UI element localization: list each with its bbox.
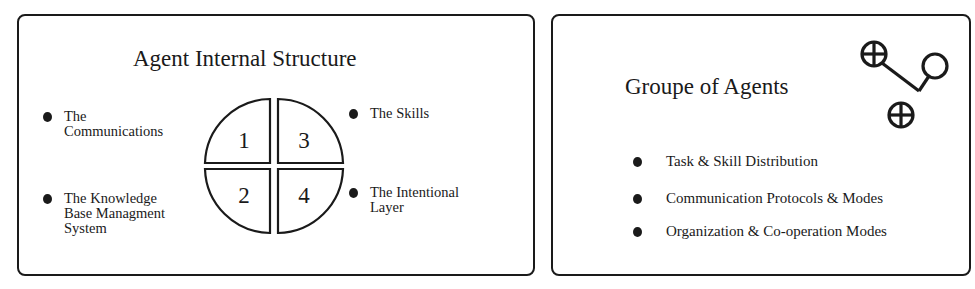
bullet-icon (349, 188, 358, 198)
list-item-intentional-layer: The Intentional Layer (349, 185, 459, 215)
agent-internal-structure-panel: Agent Internal Structure The Communicati… (17, 14, 535, 276)
panel-title: Groupe of Agents (625, 74, 789, 100)
item-label: Communication Protocols & Modes (666, 191, 883, 206)
item-label: Task & Skill Distribution (666, 154, 818, 169)
quartered-circle-diagram: 1 3 2 4 (202, 96, 346, 236)
panel-title: Agent Internal Structure (133, 46, 357, 72)
agent-node-icon (923, 54, 947, 78)
bullet-icon (633, 227, 642, 237)
bullet-icon (633, 194, 642, 204)
quadrant-4-number: 4 (298, 183, 310, 208)
bullet-icon (43, 194, 52, 204)
list-item-skills: The Skills (349, 106, 429, 121)
list-item-organization-cooperation: Organization & Co-operation Modes (633, 224, 887, 239)
quadrant-2-number: 2 (238, 183, 250, 208)
bullet-icon (43, 112, 52, 122)
list-item-task-skill-distribution: Task & Skill Distribution (633, 154, 818, 169)
item-label: The Knowledge Base Managment System (64, 191, 165, 236)
bullet-icon (633, 157, 642, 167)
list-item-communication-protocols: Communication Protocols & Modes (633, 191, 883, 206)
item-label: Organization & Co-operation Modes (666, 224, 887, 239)
bullet-icon (349, 109, 358, 119)
quadrant-1-number: 1 (238, 128, 250, 153)
quadrant-3-shape (278, 99, 343, 163)
groupe-of-agents-panel: Groupe of Agents Task & Skill Distributi… (551, 14, 971, 276)
quadrant-3-number: 3 (298, 128, 310, 153)
list-item-knowledge-base: The Knowledge Base Managment System (43, 191, 165, 236)
list-item-communications: The Communications (43, 109, 163, 139)
quadrant-4-shape (278, 169, 343, 233)
item-label: The Communications (64, 109, 163, 139)
agent-network-icon (859, 36, 975, 146)
item-label: The Intentional Layer (370, 185, 459, 215)
item-label: The Skills (370, 106, 429, 121)
